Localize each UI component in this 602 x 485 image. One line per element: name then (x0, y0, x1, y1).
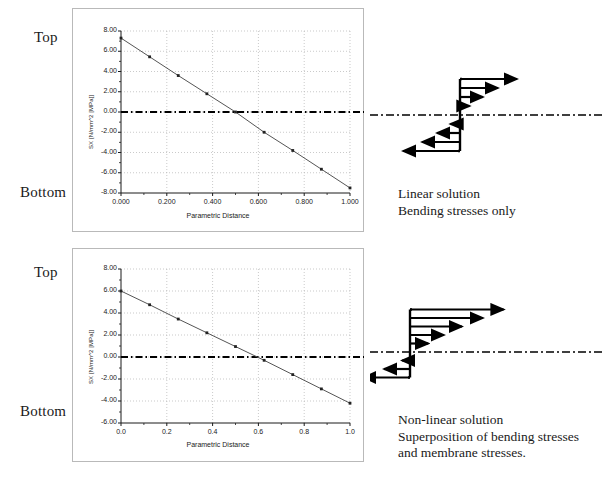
x-tick-label: 0.800 (288, 198, 320, 205)
y-tick-label: 4.00 (87, 67, 117, 74)
upper-annotation-line-2: Bending stresses only (398, 203, 516, 220)
y-tick-label: -2.00 (87, 374, 117, 381)
y-tick-label: 2.00 (87, 87, 117, 94)
x-tick-label: 1.000 (334, 198, 366, 205)
lower-annotation-line-1: Non-linear solution (398, 412, 579, 429)
upper-annotation: Linear solution Bending stresses only (398, 186, 516, 219)
y-tick-label: 0.00 (87, 352, 117, 359)
lower-bottom-label: Bottom (20, 403, 66, 420)
x-tick-label: 0.000 (105, 198, 137, 205)
x-tick-label: 0.400 (197, 198, 229, 205)
y-tick-label: -6.00 (87, 418, 117, 425)
x-tick-label: 0.0 (105, 428, 137, 435)
lower-top-label: Top (34, 264, 58, 281)
bending-only-stress-diagram (370, 55, 602, 180)
y-tick-label: 2.00 (87, 330, 117, 337)
y-tick-label: 0.00 (87, 107, 117, 114)
y-tick-label: 6.00 (87, 46, 117, 53)
y-tick-label: -8.00 (87, 188, 117, 195)
y-tick-label: 8.00 (87, 26, 117, 33)
lower-annotation-line-3: and membrane stresses. (398, 445, 579, 462)
x-tick-label: 0.600 (242, 198, 274, 205)
upper-chart-panel: SX [N/mm^2 [MPa]] Parametric Distance -8… (72, 8, 364, 232)
bending-plus-membrane-stress-diagram (370, 295, 602, 410)
upper-bottom-label: Bottom (20, 184, 66, 201)
x-tick-label: 0.6 (242, 428, 274, 435)
y-tick-label: -2.00 (87, 127, 117, 134)
x-tick-label: 1.0 (334, 428, 366, 435)
y-tick-label: 8.00 (87, 264, 117, 271)
y-tick-label: 4.00 (87, 308, 117, 315)
x-tick-label: 0.4 (197, 428, 229, 435)
lower-annotation-line-2: Superposition of bending stresses (398, 429, 579, 446)
lower-chart-panel: SX [N/mm^2 [MPa]] Parametric Distance -6… (72, 248, 364, 462)
x-tick-label: 0.2 (151, 428, 183, 435)
upper-top-label: Top (34, 29, 58, 46)
y-tick-label: 6.00 (87, 286, 117, 293)
x-tick-label: 0.200 (151, 198, 183, 205)
y-tick-label: -4.00 (87, 148, 117, 155)
lower-annotation: Non-linear solution Superposition of ben… (398, 412, 579, 462)
x-tick-label: 0.8 (288, 428, 320, 435)
lower-chart-x-axis-title: Parametric Distance (73, 441, 363, 448)
y-tick-label: -6.00 (87, 168, 117, 175)
upper-chart-x-axis-title: Parametric Distance (73, 212, 363, 219)
y-tick-label: -4.00 (87, 396, 117, 403)
upper-annotation-line-1: Linear solution (398, 186, 516, 203)
